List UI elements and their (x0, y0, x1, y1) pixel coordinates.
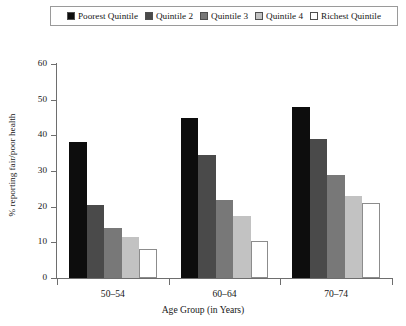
legend-swatch-icon (67, 12, 75, 20)
legend-item: Quintile 2 (145, 11, 193, 21)
y-axis-tick-label: 50 (17, 94, 47, 104)
legend-item: Quintile 4 (255, 11, 303, 21)
legend-item: Richest Quintile (310, 11, 381, 21)
y-axis-tick-label: 0 (17, 272, 47, 282)
bar (181, 118, 199, 279)
x-axis-group-label: 50–54 (68, 288, 158, 299)
legend-swatch-icon (200, 12, 208, 20)
bar (139, 249, 157, 278)
x-axis-tick (169, 279, 170, 285)
bar (216, 200, 234, 278)
legend-item-label: Richest Quintile (321, 11, 381, 21)
bar (362, 203, 380, 278)
y-axis-title: % reporting fair/poor health (7, 60, 17, 270)
bar (292, 107, 310, 278)
bar (104, 228, 122, 278)
bar (69, 142, 87, 278)
x-axis-tick (280, 279, 281, 285)
y-axis-tick-label: 40 (17, 129, 47, 139)
bar-chart-figure: Poorest QuintileQuintile 2Quintile 3Quin… (0, 0, 406, 326)
legend-item-label: Quintile 4 (266, 11, 303, 21)
bar (122, 237, 140, 278)
legend-swatch-icon (255, 12, 263, 20)
x-axis-group-label: 60–64 (180, 288, 270, 299)
plot-area (57, 64, 392, 278)
chart-legend: Poorest QuintileQuintile 2Quintile 3Quin… (50, 6, 398, 26)
y-axis-tick-label: 10 (17, 236, 47, 246)
y-axis-tick-label: 30 (17, 165, 47, 175)
x-axis-tick (392, 279, 393, 285)
y-axis-tick-label: 20 (17, 201, 47, 211)
x-axis-line (56, 278, 393, 279)
legend-item: Quintile 3 (200, 11, 248, 21)
bar (251, 241, 269, 278)
x-axis-group-label: 70–74 (291, 288, 381, 299)
bar (345, 196, 363, 278)
y-axis-tick-label: 60 (17, 58, 47, 68)
legend-swatch-icon (310, 12, 318, 20)
x-axis-title: Age Group (in Years) (0, 304, 406, 315)
bar (310, 139, 328, 278)
legend-item: Poorest Quintile (67, 11, 138, 21)
legend-item-label: Quintile 2 (156, 11, 193, 21)
bar (87, 205, 105, 278)
bar (233, 216, 251, 278)
legend-item-label: Quintile 3 (211, 11, 248, 21)
legend-swatch-icon (145, 12, 153, 20)
bar (327, 175, 345, 278)
legend-item-label: Poorest Quintile (78, 11, 138, 21)
x-axis-tick (57, 279, 58, 285)
bar (198, 155, 216, 278)
